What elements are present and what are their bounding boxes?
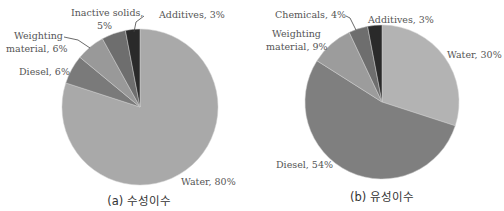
caption-water-based-mud: (a) 수성이수 [107,194,171,208]
label-diesel: Diesel, 6% [19,66,70,77]
figure: Inactive solids, 5% Additives, 3% Weight… [0,0,504,211]
pie-chart-water-based-mud [62,29,218,185]
label-weighting-material: Weighting [14,30,63,41]
label-chemicals: Chemicals, 4% [275,9,346,20]
pie-chart-oil-based-mud [305,25,459,179]
caption-oil-based-mud: (b) 유성이수 [350,190,414,204]
label-weighting-material-pct: material, 6% [6,43,68,54]
label-water: Water, 80% [181,176,236,187]
label-inactive-solids-pct: 5% [97,20,112,31]
label-weighting-material: Weighting [272,28,321,39]
label-diesel: Diesel, 54% [276,159,333,170]
leader-line-weighting [64,37,90,48]
label-weighting-material-pct: material, 9% [266,41,328,52]
label-additives: Additives, 3% [158,9,225,20]
label-water: Water, 30% [447,49,502,60]
label-additives: Additives, 3% [367,14,434,25]
leader-line-chemicals [346,16,356,30]
label-inactive-solids: Inactive solids, [71,7,143,18]
